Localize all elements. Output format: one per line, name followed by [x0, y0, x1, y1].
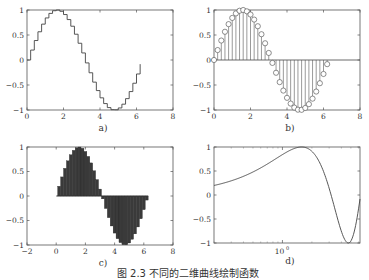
- bar: [61, 177, 64, 196]
- stem-marker: [248, 12, 253, 17]
- bar: [78, 147, 81, 196]
- bar: [99, 189, 102, 196]
- bar: [81, 148, 84, 196]
- bar: [64, 168, 67, 196]
- y-tick-label: −0.5: [6, 216, 24, 225]
- bar: [142, 196, 145, 210]
- subplot-label: d): [285, 256, 294, 266]
- stem-marker: [230, 15, 235, 20]
- bar: [72, 150, 75, 196]
- bar: [110, 196, 113, 226]
- y-tick-label: 0: [19, 192, 24, 201]
- stem-marker: [252, 17, 257, 22]
- bar: [93, 171, 96, 196]
- y-tick-label: −1: [13, 106, 24, 115]
- stem-marker: [270, 60, 275, 65]
- bar: [104, 196, 107, 209]
- bar: [128, 196, 131, 243]
- stem-marker: [222, 29, 227, 34]
- stem-marker: [277, 80, 282, 85]
- figure-caption: 图 2.3 不同的二维曲线绘制函数: [117, 267, 259, 279]
- x-tick-label: 8: [171, 247, 176, 256]
- x-tick-label: 4: [112, 247, 117, 256]
- subplot-a: 10.50−0.5−102468a): [6, 6, 176, 133]
- y-tick-label: 0: [206, 56, 211, 65]
- bar: [139, 196, 142, 219]
- y-tick-label: 1: [206, 6, 211, 15]
- y-tick-label: 0: [206, 191, 211, 200]
- subplot-b: 10.50−0.5−102468b): [193, 6, 363, 133]
- x-tick-label: 10: [275, 247, 285, 256]
- y-tick-label: −0.5: [193, 81, 211, 90]
- bar: [113, 196, 116, 233]
- bar: [96, 180, 99, 196]
- subplot-label: b): [285, 123, 294, 133]
- bar: [69, 155, 72, 196]
- figure: 10.50−0.5−102468a)10.50−0.5−102468b)10.5…: [0, 0, 369, 280]
- stem-marker: [325, 62, 330, 67]
- x-tick-exponent: 0: [286, 245, 289, 251]
- bar: [119, 196, 122, 243]
- stem-marker: [266, 50, 271, 55]
- bar: [122, 196, 125, 245]
- bar: [137, 196, 140, 227]
- stem-marker: [215, 47, 220, 52]
- bar: [58, 186, 61, 196]
- x-tick-label: 2: [83, 247, 88, 256]
- stem-marker: [226, 22, 231, 27]
- x-tick-label: −2: [21, 247, 32, 256]
- y-tick-label: 0.5: [12, 167, 24, 176]
- stem-marker: [314, 89, 319, 94]
- bar: [66, 161, 69, 196]
- y-tick-label: 0.5: [199, 31, 211, 40]
- bar: [116, 196, 119, 239]
- y-tick-label: 0.5: [199, 167, 211, 176]
- y-tick-label: 1: [19, 143, 24, 152]
- x-tick-label: 6: [141, 247, 146, 256]
- x-tick-label: 0: [25, 112, 30, 121]
- stem-marker: [211, 57, 216, 62]
- stem-marker: [310, 96, 315, 101]
- stem-marker: [219, 38, 224, 43]
- bar: [145, 196, 148, 200]
- stem-marker: [255, 24, 260, 29]
- subplot-label: c): [99, 258, 108, 268]
- stem-marker: [306, 102, 311, 107]
- bar: [107, 196, 110, 218]
- stem-marker: [317, 81, 322, 86]
- y-tick-label: 0.5: [12, 31, 24, 40]
- bar: [131, 196, 134, 239]
- y-tick-label: 1: [19, 6, 24, 15]
- x-tick-label: 4: [285, 112, 290, 121]
- semilogx-series: [214, 147, 360, 243]
- subplot-d: 10.50−0.5−1100d): [193, 143, 360, 266]
- stem-marker: [321, 71, 326, 76]
- x-tick-label: 0: [212, 112, 217, 121]
- x-tick-label: 0: [54, 247, 59, 256]
- bar: [134, 196, 137, 234]
- x-tick-label: 2: [248, 112, 253, 121]
- stem-marker: [281, 88, 286, 93]
- y-tick-label: −1: [200, 106, 211, 115]
- stem-marker: [259, 32, 264, 37]
- subplot-c: 10.50−0.5−1−202468c): [6, 143, 176, 268]
- y-tick-label: 1: [206, 143, 211, 152]
- axes-box: [214, 147, 360, 243]
- x-tick-label: 6: [134, 112, 139, 121]
- y-tick-label: 0: [19, 56, 24, 65]
- stem-marker: [273, 70, 278, 75]
- y-tick-label: −0.5: [6, 81, 24, 90]
- x-tick-label: 4: [98, 112, 103, 121]
- bar: [90, 163, 93, 196]
- bar: [84, 151, 87, 196]
- stem-marker: [284, 95, 289, 100]
- x-tick-label: 2: [61, 112, 66, 121]
- bar: [75, 148, 78, 196]
- x-tick-label: 8: [171, 112, 176, 121]
- x-tick-label: 8: [358, 112, 363, 121]
- bar: [101, 196, 104, 199]
- x-tick-label: 6: [321, 112, 326, 121]
- stairs-series: [27, 10, 140, 110]
- y-tick-label: −1: [200, 239, 211, 248]
- subplot-label: a): [99, 123, 108, 133]
